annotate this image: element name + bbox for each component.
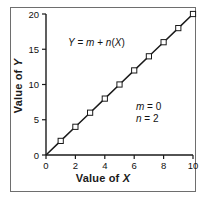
data-point-marker bbox=[146, 54, 151, 59]
param-m-name: m bbox=[136, 101, 144, 112]
x-tick-label-8: 8 bbox=[161, 160, 166, 171]
param-m-annotation: m = 0 bbox=[136, 101, 162, 112]
y-tick-label-15: 15 bbox=[28, 44, 39, 55]
data-point-marker bbox=[73, 124, 78, 129]
data-point-marker bbox=[102, 96, 107, 101]
data-point-marker bbox=[117, 82, 122, 87]
x-tick-label-4: 4 bbox=[102, 160, 107, 171]
x-tick-label-10: 10 bbox=[188, 160, 199, 171]
param-n-value: 2 bbox=[153, 113, 159, 124]
data-point-marker bbox=[132, 68, 137, 73]
plot-area: 20 15 10 5 0 0 2 4 6 8 10 Y = m + n(X) m… bbox=[0, 0, 207, 200]
x-tick-label-0: 0 bbox=[43, 160, 48, 171]
equation-plus: + bbox=[94, 37, 105, 48]
param-n-annotation: n = 2 bbox=[136, 113, 159, 124]
y-tick-label-10: 10 bbox=[28, 79, 39, 90]
data-point-marker bbox=[176, 26, 181, 31]
data-point-marker bbox=[58, 138, 63, 143]
y-tick-label-20: 20 bbox=[28, 9, 39, 20]
equation-close-paren: ) bbox=[121, 37, 124, 48]
equation-eq: = bbox=[75, 37, 86, 48]
x-tick-label-2: 2 bbox=[73, 160, 78, 171]
param-m-eq: = bbox=[144, 101, 155, 112]
data-point-marker bbox=[190, 11, 195, 16]
equation-annotation: Y = m + n(X) bbox=[68, 37, 125, 48]
data-point-marker bbox=[88, 110, 93, 115]
y-tick-label-0: 0 bbox=[34, 150, 39, 161]
equation-m: m bbox=[86, 37, 94, 48]
y-tick-label-5: 5 bbox=[34, 114, 39, 125]
param-m-value: 0 bbox=[156, 101, 162, 112]
data-point-marker bbox=[161, 40, 166, 45]
param-n-eq: = bbox=[142, 113, 153, 124]
chart-figure: Value of Y Value of X 20 15 10 5 0 bbox=[0, 0, 207, 200]
x-tick-label-6: 6 bbox=[132, 160, 137, 171]
